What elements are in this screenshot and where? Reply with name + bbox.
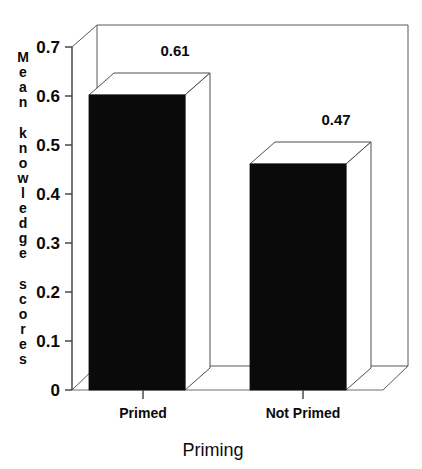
y-axis-title-letter: e	[19, 64, 27, 80]
y-tick-label-5: 0.5	[36, 136, 60, 155]
x-category-label-primed: Primed	[119, 405, 166, 421]
y-axis-title-letter: d	[19, 215, 28, 231]
y-tick-label-4: 0.4	[36, 185, 60, 204]
y-tick-label-6: 0.6	[36, 87, 60, 106]
bar-value-label-primed: 0.61	[160, 42, 189, 59]
y-axis-title-letter: e	[19, 336, 27, 352]
bar-primed-side-face	[185, 73, 210, 390]
y-tick-label-7: 0.7	[36, 38, 60, 57]
y-axis-title-letter: w	[17, 170, 29, 186]
bar-not-primed-front-face	[250, 164, 346, 390]
y-axis-title-letter: e	[19, 245, 27, 261]
y-axis-title-letter: n	[19, 94, 28, 110]
y-tick-label-1: 0.1	[36, 332, 60, 351]
y-tick-label-3: 0.3	[36, 234, 60, 253]
y-axis-title-letter: M	[17, 49, 29, 65]
bar-not-primed-side-face	[346, 142, 371, 390]
x-category-label-not-primed: Not Primed	[266, 405, 341, 421]
y-axis-title-letter: l	[21, 185, 25, 201]
bar-chart-3d: 0 0.1 0.2 0.3 0.4 0.5 0.6 0.7 Meanknowle…	[0, 0, 422, 469]
plot-edge-bottom-right	[383, 366, 408, 390]
y-axis-title-letter: c	[19, 291, 27, 307]
x-axis-title: Priming	[182, 440, 243, 460]
y-axis-title-letter: e	[19, 200, 27, 216]
y-axis-title-letter: s	[19, 351, 27, 367]
y-axis-title-letter: r	[20, 321, 26, 337]
bar-group-not-primed[interactable]: 0.47	[250, 111, 371, 390]
plot-edge-top-left	[72, 25, 97, 47]
y-axis-title-letter: k	[19, 125, 27, 141]
x-axis: Primed Not Primed Priming	[119, 390, 340, 460]
y-axis-title-letter: o	[19, 155, 28, 171]
bar-value-label-not-primed: 0.47	[321, 111, 350, 128]
y-axis: 0 0.1 0.2 0.3 0.4 0.5 0.6 0.7	[36, 38, 72, 400]
y-axis-title-letter: o	[19, 306, 28, 322]
y-axis-title-letter: g	[19, 230, 28, 246]
y-axis-title-letter: a	[19, 79, 27, 95]
chart-container: 0 0.1 0.2 0.3 0.4 0.5 0.6 0.7 Meanknowle…	[0, 0, 422, 469]
y-axis-title-letter: s	[19, 276, 27, 292]
bar-primed-front-face	[89, 95, 185, 390]
y-tick-label-0: 0	[51, 381, 60, 400]
y-axis-title: Meanknowledgescores	[17, 49, 29, 367]
y-axis-title-letter: n	[19, 140, 28, 156]
bar-group-primed[interactable]: 0.61	[89, 42, 210, 390]
y-tick-label-2: 0.2	[36, 283, 60, 302]
